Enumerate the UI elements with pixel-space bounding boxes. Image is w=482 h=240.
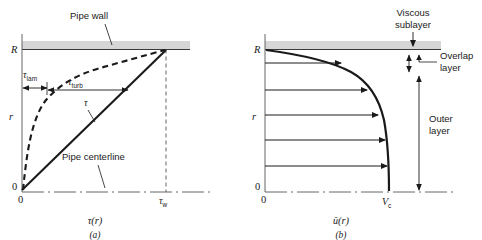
velocity-arrow (265, 87, 368, 93)
velocity-arrow (265, 60, 342, 66)
y-axis-tick-R: R (10, 44, 18, 55)
tau-lam-label: τlam (23, 69, 37, 82)
figure-container: τlam τturb τ Pipe wall Pipe centerline R (0, 0, 482, 240)
tau-total-label: τ (84, 97, 88, 108)
tau-w-tick-label: τw (159, 195, 168, 208)
y-axis-label-r: r (252, 111, 257, 122)
pipe-centerline-label: Pipe centerline (62, 151, 125, 162)
outer-layer-dimension (416, 76, 422, 192)
viscous-sublayer-label-line1: Viscous (396, 7, 429, 18)
tau-lam-dimension (23, 82, 48, 95)
velocity-arrow (265, 112, 379, 118)
overlap-layer-dimension (406, 55, 437, 73)
outer-layer-label-line2: layer (429, 125, 450, 136)
pipe-wall-band (22, 41, 190, 49)
pipe-centerline-leader (98, 165, 105, 188)
origin-label-bottom: 0 (261, 194, 266, 205)
origin-label-left: 0 (12, 181, 17, 192)
panel-a-svg: τlam τturb τ Pipe wall Pipe centerline R (0, 0, 241, 240)
origin-label-left: 0 (255, 181, 260, 192)
panel-a-xlabel: τ(r) (88, 215, 103, 227)
velocity-profile-curve (266, 50, 389, 191)
y-axis-tick-R: R (253, 44, 261, 55)
velocity-arrow (265, 163, 388, 169)
y-axis-label-r: r (9, 111, 14, 122)
origin-label-bottom: 0 (18, 194, 23, 205)
panel-b-tag: (b) (335, 230, 346, 240)
viscous-sublayer-label-line2: sublayer (395, 19, 431, 30)
velocity-arrow-group (265, 60, 388, 169)
panel-a-shear-stress: τlam τturb τ Pipe wall Pipe centerline R (0, 0, 241, 240)
pipe-wall-label: Pipe wall (70, 10, 108, 21)
overlap-layer-label-line2: layer (440, 62, 461, 73)
tau-total-leader (88, 110, 95, 122)
velocity-arrow (265, 137, 386, 143)
vc-tick-label: Vc (382, 196, 392, 209)
overlap-layer-label-line1: Overlap (440, 50, 473, 61)
outer-layer-label-line1: Outer (429, 113, 453, 124)
panel-a-tag: (a) (89, 230, 100, 240)
panel-b-velocity-profile: Viscous sublayer Overlap layer (241, 0, 482, 240)
panel-b-xlabel: ū(r) (333, 215, 350, 227)
panel-b-svg: Viscous sublayer Overlap layer (241, 0, 482, 240)
